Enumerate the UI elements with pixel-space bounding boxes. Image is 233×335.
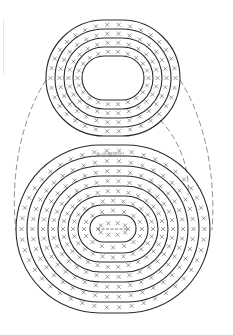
rounds-label: ⑧-⑪増減なし	[96, 151, 127, 158]
crochet-diagram: ⑧-⑪増減なし	[0, 0, 233, 335]
upper-oval	[46, 20, 180, 136]
